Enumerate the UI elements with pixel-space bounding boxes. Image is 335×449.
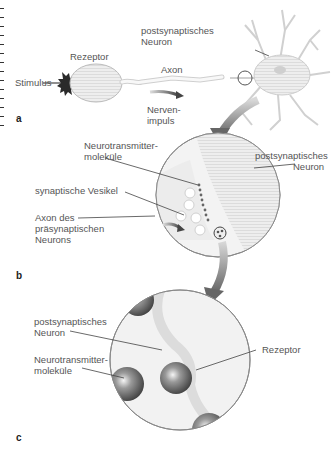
label-neurotransmitter-c-1: Neurotransmitter-: [34, 354, 108, 365]
label-postsynaptic-c-2: Neuron: [34, 327, 65, 338]
label-axon-pre-3: Neurons: [35, 234, 71, 245]
label-stimulus: Stimulus: [15, 77, 51, 88]
panel-letter-b: b: [16, 270, 22, 281]
label-axon-pre-2: präsynaptischen: [35, 223, 104, 234]
nerve-impulse-arrow: [150, 91, 178, 95]
panel-letter-c: c: [16, 432, 22, 443]
label-neurotransmitter-b-2: moleküle: [84, 151, 122, 162]
label-postsynaptic-c-1: postsynaptisches: [34, 316, 107, 327]
label-axon: Axon: [161, 64, 183, 75]
label-axon-pre-1: Axon des: [35, 212, 75, 223]
label-neurotransmitter-c-2: moleküle: [34, 365, 72, 376]
label-postsynaptic-b-2: Neuron: [293, 161, 324, 172]
receptor-cell: [70, 64, 122, 102]
label-postsynaptic-a-1: postsynaptisches: [141, 25, 214, 36]
label-nerve-impulse-2: impuls: [147, 115, 174, 126]
label-postsynaptic-b-1: postsynaptisches: [255, 150, 328, 161]
label-vesicle: synaptische Vesikel: [35, 185, 118, 196]
panel-c-illustration: [70, 284, 256, 448]
label-neurotransmitter-b-1: Neurotransmitter-: [84, 140, 158, 151]
label-receptor-a: Rezeptor: [70, 51, 109, 62]
postsynaptic-neuron-body: [254, 55, 310, 95]
panel-letter-a: a: [16, 113, 22, 124]
label-receptor-c: Rezeptor: [262, 344, 301, 355]
bound-neurotransmitter-molecule: [160, 362, 192, 394]
label-nerve-impulse-1: Nerven-: [147, 104, 181, 115]
label-postsynaptic-a-2: Neuron: [141, 36, 172, 47]
leader-axon-pre-b: [78, 216, 155, 218]
